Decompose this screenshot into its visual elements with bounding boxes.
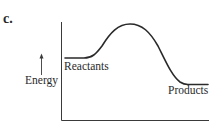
products-label: Products bbox=[168, 84, 208, 96]
y-axis-label: Energy bbox=[25, 74, 58, 86]
up-arrow-icon bbox=[40, 54, 44, 76]
energy-curve bbox=[65, 24, 208, 85]
reactants-label: Reactants bbox=[64, 60, 109, 72]
